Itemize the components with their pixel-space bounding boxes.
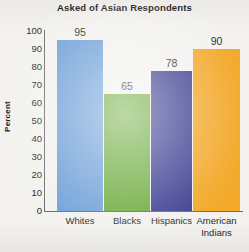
category-label: American Indians xyxy=(187,215,246,238)
bar xyxy=(193,49,240,211)
bar-value-label: 90 xyxy=(193,35,240,47)
bar xyxy=(151,71,192,211)
x-axis-line xyxy=(44,211,243,212)
bar-chart: Asked of Asian Respondents Percent 10090… xyxy=(0,0,249,252)
bar xyxy=(104,94,150,211)
bar-value-label: 78 xyxy=(151,57,192,69)
bar xyxy=(57,40,103,211)
bar-value-label: 95 xyxy=(57,26,103,38)
x-axis-category-labels: WhitesBlacksHispanicsAmerican Indians xyxy=(0,213,249,252)
bars-layer: 95657890 xyxy=(0,0,249,211)
bar-value-label: 65 xyxy=(104,80,150,92)
